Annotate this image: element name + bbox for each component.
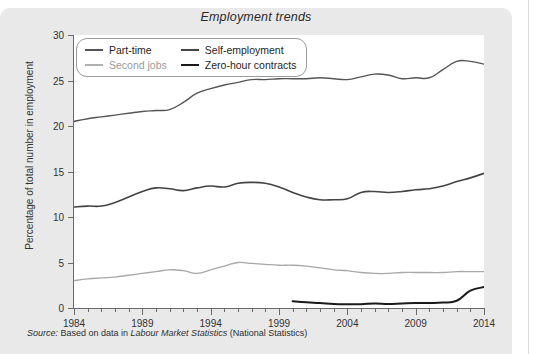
- y-tick-label: 10: [53, 212, 64, 223]
- x-tick-minor: [429, 309, 430, 312]
- x-tick-major: [347, 309, 348, 315]
- series-line: [74, 262, 484, 280]
- x-tick-minor: [115, 309, 116, 312]
- x-tick-minor: [170, 309, 171, 312]
- legend-label: Part-time: [109, 44, 152, 56]
- x-tick-minor: [443, 309, 444, 312]
- y-axis-ticks: 051015202530: [0, 35, 73, 309]
- legend-line-icon: [85, 49, 103, 51]
- x-tick-major: [74, 309, 75, 315]
- x-tick-minor: [375, 309, 376, 312]
- x-tick-minor: [129, 309, 130, 312]
- y-tick-label: 0: [58, 303, 64, 314]
- x-tick-minor: [470, 309, 471, 312]
- source-text-before: Based on data in: [58, 328, 131, 338]
- x-tick-minor: [306, 309, 307, 312]
- series-line: [293, 287, 484, 304]
- page-right-rule: [528, 0, 529, 354]
- x-tick-minor: [388, 309, 389, 312]
- legend-line-icon: [181, 49, 199, 51]
- x-tick-minor: [265, 309, 266, 312]
- source-publication: Labour Market Statistics: [131, 328, 228, 338]
- source-note: Source: Based on data in Labour Market S…: [27, 328, 307, 338]
- legend-item[interactable]: Second jobs: [85, 59, 167, 71]
- legend-item[interactable]: Part-time: [85, 44, 167, 56]
- x-tick-major: [211, 309, 212, 315]
- page-root: Employment trends Percentage of total nu…: [0, 0, 538, 354]
- y-tick-label: 30: [53, 30, 64, 41]
- x-tick-major: [142, 309, 143, 315]
- x-tick-label: 2004: [336, 318, 358, 329]
- y-tick-label: 15: [53, 166, 64, 177]
- x-tick-minor: [320, 309, 321, 312]
- x-tick-label: 2014: [473, 318, 495, 329]
- legend-item[interactable]: Zero-hour contracts: [181, 59, 297, 71]
- y-tick-label: 25: [53, 75, 64, 86]
- x-tick-minor: [293, 309, 294, 312]
- x-tick-major: [279, 309, 280, 315]
- series-line: [74, 173, 484, 207]
- x-tick-minor: [238, 309, 239, 312]
- chart-title: Employment trends: [0, 10, 512, 24]
- y-tick-label: 20: [53, 121, 64, 132]
- x-tick-label: 2009: [405, 318, 427, 329]
- x-tick-minor: [101, 309, 102, 312]
- legend-label: Self-employment: [205, 44, 284, 56]
- x-tick-major: [416, 309, 417, 315]
- x-tick-minor: [183, 309, 184, 312]
- x-tick-minor: [88, 309, 89, 312]
- source-text-after: (National Statistics): [227, 328, 307, 338]
- legend-label: Second jobs: [109, 59, 167, 71]
- x-tick-minor: [197, 309, 198, 312]
- legend-label: Zero-hour contracts: [205, 59, 297, 71]
- x-tick-minor: [457, 309, 458, 312]
- legend-line-icon: [85, 64, 103, 66]
- source-label: Source:: [27, 328, 58, 338]
- x-tick-minor: [224, 309, 225, 312]
- x-tick-minor: [252, 309, 253, 312]
- legend-line-icon: [181, 64, 199, 66]
- x-tick-minor: [156, 309, 157, 312]
- x-tick-minor: [402, 309, 403, 312]
- x-tick-minor: [334, 309, 335, 312]
- y-tick-label: 5: [58, 257, 64, 268]
- legend-item[interactable]: Self-employment: [181, 44, 297, 56]
- chart-legend: Part-timeSelf-employmentSecond jobsZero-…: [76, 38, 307, 77]
- x-tick-minor: [361, 309, 362, 312]
- x-tick-major: [484, 309, 485, 315]
